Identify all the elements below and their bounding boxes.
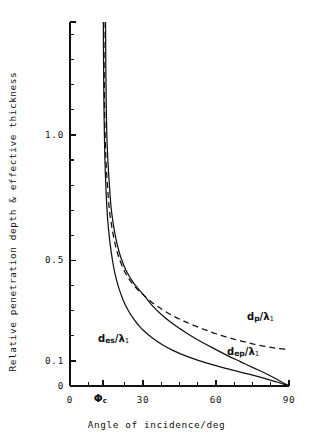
y-axis-title: Relative penetration depth & effective t… — [2, 0, 24, 443]
curve-label-des-lambda-sub: 1 — [125, 337, 129, 345]
curve-label-dp-lambda-sub: 1 — [270, 315, 274, 323]
curve-label-dep: dep/λ1 — [227, 346, 259, 358]
critical-angle-label: Φc — [94, 392, 107, 405]
chart-figure: Relative penetration depth & effective t… — [0, 0, 313, 443]
curve-label-dp: dp/λ1 — [247, 311, 274, 323]
y-tick-label: 0 — [58, 380, 64, 391]
y-tick-label: 1.0 — [45, 129, 64, 140]
y-tick-label: 0.1 — [45, 355, 64, 366]
critical-angle-symbol: Φ — [94, 392, 103, 404]
curve-label-des: des/λ1 — [98, 333, 129, 345]
y-tick-label: 0.5 — [45, 254, 64, 265]
chart-background — [0, 0, 313, 443]
x-tick-label: 0 — [55, 394, 85, 405]
critical-angle-subscript: c — [103, 397, 107, 405]
x-tick-label: 30 — [128, 394, 158, 405]
curve-label-dep-sub: ep — [234, 349, 245, 358]
curve-label-dep-lambda-sub: 1 — [255, 350, 259, 358]
curve-label-des-sub: es — [105, 336, 115, 345]
x-axis-title: Angle of incidence/deg — [0, 419, 313, 430]
plot-area — [0, 0, 313, 443]
x-tick-label: 90 — [274, 394, 304, 405]
x-tick-label: 60 — [201, 394, 231, 405]
